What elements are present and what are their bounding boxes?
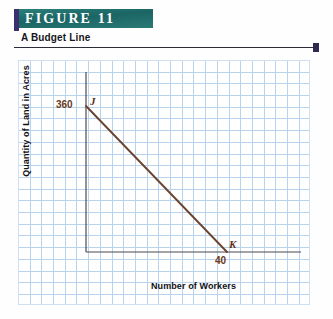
chart-grid-background (18, 60, 310, 305)
x-axis-title: Number of Workers (86, 281, 301, 291)
point-j-label: J (90, 95, 96, 107)
subtitle-divider (14, 47, 319, 48)
point-k-label: K (229, 238, 236, 250)
y-axis-title: Quantity of Land in Acres (21, 51, 31, 191)
y-intercept-value: 360 (56, 99, 73, 110)
figure-subtitle: A Budget Line (21, 32, 90, 43)
subtitle-endcap-marker (313, 43, 319, 52)
figure-number-label: FIGURE 11 (25, 11, 115, 26)
figure-subtitle-row: A Budget Line (14, 32, 319, 52)
x-intercept-value: 40 (215, 255, 226, 266)
figure-header: FIGURE 11 A Budget Line (14, 9, 319, 28)
figure-container: FIGURE 11 A Budget Line Quantity of Land… (0, 0, 333, 319)
figure-title-bar: FIGURE 11 (14, 9, 319, 28)
